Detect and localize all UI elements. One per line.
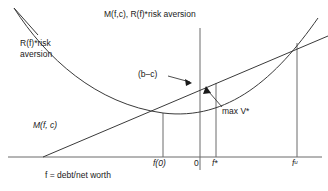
spread-annotation-label: (b–c) xyxy=(138,69,157,80)
economics-figure: M(f,c), R(f)*risk aversion R(f)*risk ave… xyxy=(0,0,328,191)
max-value-annotation-label: max V* xyxy=(222,106,249,117)
risk-aversion-curve-label-line1: R(f)*risk xyxy=(20,38,52,49)
x-tick-label-origin: 0 xyxy=(194,158,199,168)
series-m-f-c-line xyxy=(43,36,328,157)
leader-line-risk-aversion xyxy=(14,8,38,35)
market-line-label: M(f, c) xyxy=(33,120,57,131)
x-tick-label-f-star: f* xyxy=(212,158,218,168)
x-axis-caption: f = debt/net worth xyxy=(45,170,111,181)
risk-aversion-curve-label-line2: aversion xyxy=(20,49,52,60)
x-tick-label-f-u: fᵘ xyxy=(292,158,297,168)
series-r-f-risk-aversion-curve xyxy=(14,8,318,114)
arrow-head-spread xyxy=(185,79,192,86)
chart-title: M(f,c), R(f)*risk aversion xyxy=(104,9,196,20)
x-tick-label-f-zero: f(0) xyxy=(153,158,166,168)
risk-aversion-curve-label: R(f)*risk aversion xyxy=(20,38,52,59)
